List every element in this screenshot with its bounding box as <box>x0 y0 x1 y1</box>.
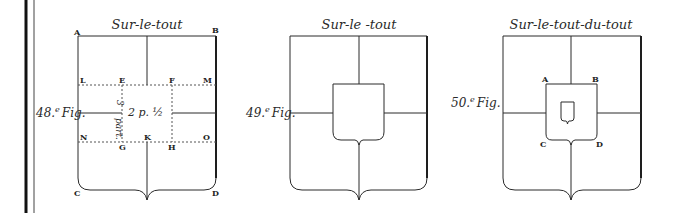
figure-49-label: 49.eFig. <box>245 105 296 120</box>
point-N: N <box>80 132 87 142</box>
point-G: G <box>119 142 126 152</box>
point-K: K <box>144 132 152 142</box>
point-M: M <box>203 75 212 85</box>
shield-outline <box>503 36 641 200</box>
figure-48: Sur-le-tout A B C D L E F M N K O G H 2 … <box>35 17 219 200</box>
point-O: O <box>203 132 210 142</box>
heraldry-plate: Sur-le-tout A B C D L E F M N K O G H 2 … <box>0 0 673 213</box>
measure-height-unit: part. <box>114 118 124 140</box>
point-F: F <box>169 75 175 85</box>
point-B: B <box>592 74 599 84</box>
point-D: D <box>596 139 603 149</box>
point-A: A <box>541 74 549 84</box>
point-C: C <box>540 139 546 149</box>
figure-49-title: Sur-le -tout <box>322 17 398 32</box>
measure-width: 2 p. ½ <box>127 106 163 119</box>
point-B: B <box>212 25 219 35</box>
point-D: D <box>212 188 219 198</box>
figure-50: Sur-le-tout-du-tout A B C D 50.eFig. <box>451 17 641 200</box>
figure-50-label: 50.eFig. <box>451 95 501 110</box>
point-H: H <box>168 142 176 152</box>
inescutcheon <box>546 84 597 145</box>
point-E: E <box>119 75 125 85</box>
figure-50-title: Sur-le-tout-du-tout <box>510 17 634 32</box>
inner-inescutcheon <box>561 102 574 124</box>
figure-49: Sur-le -tout 49.eFig. <box>245 17 427 200</box>
inescutcheon <box>333 84 384 145</box>
point-L: L <box>80 75 86 85</box>
point-A: A <box>73 27 81 37</box>
point-C: C <box>74 188 80 198</box>
measure-height-num: 3 <box>115 100 125 106</box>
figure-48-title: Sur-le-tout <box>112 17 184 32</box>
figure-48-label: 48.eFig. <box>35 105 86 120</box>
